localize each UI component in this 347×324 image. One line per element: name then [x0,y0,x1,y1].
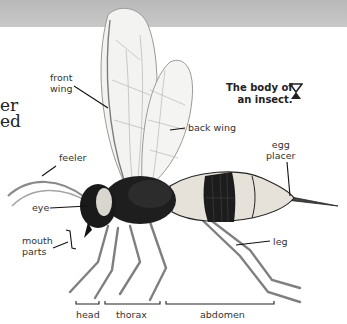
label-leg: leg [273,236,288,247]
caption: The body of an insect. [226,82,293,106]
triangle-pointer-icon [289,83,303,101]
label-back-wing: back wing [188,122,236,133]
insect-illustration [0,0,347,324]
label-egg-placer-line2: placer [266,150,295,161]
label-mouth-parts-line1: mouth [22,235,53,246]
label-mouth-parts-line2: parts [22,246,53,257]
caption-line2: an insect. [226,94,293,106]
label-section-abdomen: abdomen [200,309,245,320]
section-brackets [76,301,274,304]
label-front-wing: front wing [50,72,73,94]
label-egg-placer: egg placer [266,139,295,161]
label-front-wing-line1: front [50,72,73,83]
label-egg-placer-line1: egg [266,139,295,150]
label-front-wing-line2: wing [50,83,73,94]
cut-off-text-line2: ed [0,114,21,129]
label-mouth-parts: mouth parts [22,235,53,257]
label-eye: eye [32,202,49,213]
abdomen-drawing [170,172,294,222]
caption-line1: The body of [226,82,293,94]
label-section-thorax: thorax [116,309,147,320]
head-drawing [80,184,116,238]
label-feeler: feeler [59,152,86,163]
label-section-head: head [76,309,100,320]
